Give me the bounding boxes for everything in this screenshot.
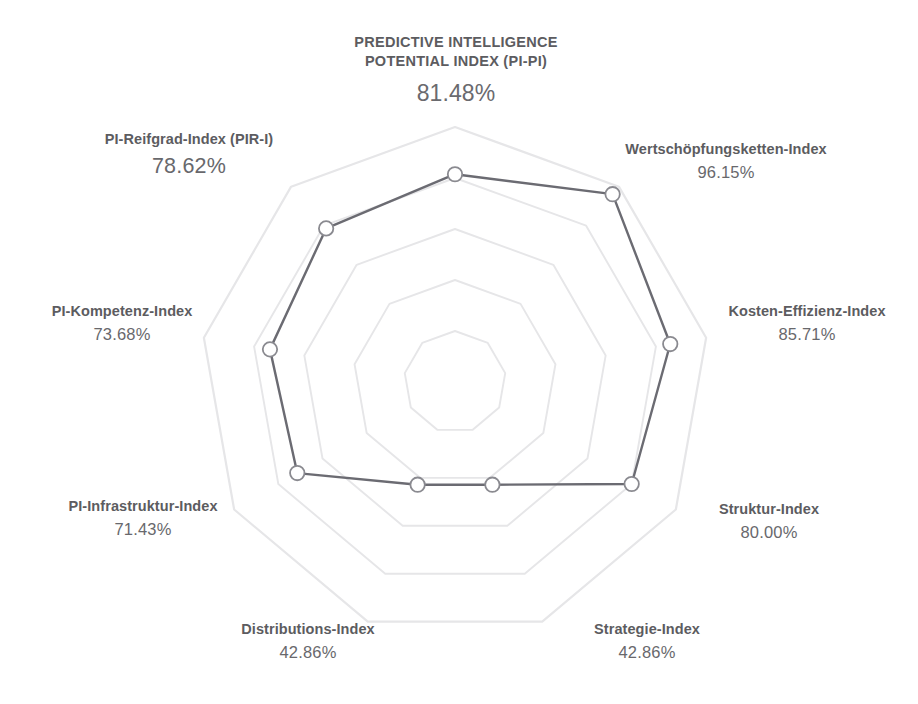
title-line-2: POTENTIAL INDEX (PI-PI) <box>296 52 616 71</box>
axis-label-wertschoepfungsketten: Wertschöpfungsketten-Index 96.15% <box>596 140 856 183</box>
axis-label-text: Struktur-Index <box>662 500 876 518</box>
axis-label-pi-reifgrad: PI-Reifgrad-Index (PIR-I) 78.62% <box>58 130 320 180</box>
data-point-PI-Infrastruktur-Index <box>290 466 304 480</box>
figure-caption <box>26 689 496 704</box>
title-line-1: PREDICTIVE INTELLIGENCE <box>296 33 616 52</box>
axis-label-text: Kosten-Effizienz-Index <box>700 302 914 320</box>
axis-value-text: 78.62% <box>58 153 320 180</box>
radar-data-markers <box>263 167 678 492</box>
axis-value-text: 42.86% <box>188 642 428 663</box>
grid-ring-1 <box>405 331 505 430</box>
grid-ring-5 <box>204 127 706 622</box>
axis-label-text: Strategie-Index <box>540 620 754 638</box>
page-title: PREDICTIVE INTELLIGENCE POTENTIAL INDEX … <box>296 33 616 108</box>
data-point-Strategie-Index <box>485 478 499 492</box>
axis-label-pi-infrastruktur: PI-Infrastruktur-Index 71.43% <box>18 497 268 540</box>
axis-value-text: 42.86% <box>540 642 754 663</box>
data-point-Wertschöpfungsketten-Index <box>605 187 619 201</box>
axis-label-text: PI-Infrastruktur-Index <box>18 497 268 515</box>
data-point-Kosten-Effizienz-Index <box>663 337 677 351</box>
radar-gridlines <box>204 127 706 622</box>
axis-label-text: PI-Kompetenz-Index <box>8 302 236 320</box>
data-point-Distributions-Index <box>410 478 424 492</box>
axis-label-text: PI-Reifgrad-Index (PIR-I) <box>58 130 320 148</box>
axis-label-distributions: Distributions-Index 42.86% <box>188 620 428 663</box>
grid-ring-4 <box>254 178 656 574</box>
grid-ring-3 <box>304 229 605 526</box>
axis-label-pi-kompetenz: PI-Kompetenz-Index 73.68% <box>8 302 236 345</box>
axis-label-text: Distributions-Index <box>188 620 428 638</box>
title-value: 81.48% <box>296 78 616 109</box>
data-point-PI-Kompetenz-Index <box>263 342 277 356</box>
axis-value-text: 96.15% <box>596 162 856 183</box>
axis-value-text: 71.43% <box>18 519 268 540</box>
radar-series-polygon <box>270 174 670 484</box>
data-point-PI-Reifgrad-Index (PIR-I) <box>319 221 333 235</box>
axis-value-text: 80.00% <box>662 522 876 543</box>
radar-chart: PREDICTIVE INTELLIGENCE POTENTIAL INDEX … <box>0 0 918 704</box>
axis-label-struktur: Struktur-Index 80.00% <box>662 500 876 543</box>
series-pi-pi <box>270 174 670 484</box>
data-point-Struktur-Index <box>624 477 638 491</box>
axis-value-text: 73.68% <box>8 324 236 345</box>
grid-ring-2 <box>355 280 556 478</box>
axis-label-strategie: Strategie-Index 42.86% <box>540 620 754 663</box>
axis-label-kosten-effizienz: Kosten-Effizienz-Index 85.71% <box>700 302 914 345</box>
data-point-PREDICTIVE INTELLIGENCE POTENTIAL INDEX (PI-PI) <box>448 167 462 181</box>
axis-label-text: Wertschöpfungsketten-Index <box>596 140 856 158</box>
axis-value-text: 85.71% <box>700 324 914 345</box>
